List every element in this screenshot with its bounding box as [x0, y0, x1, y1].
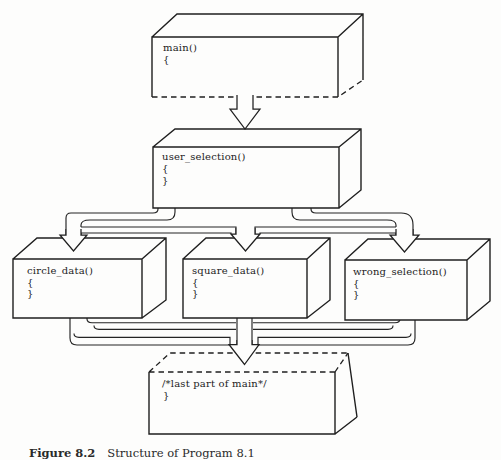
- wrong-selection-brace-open: {: [353, 278, 360, 289]
- circle-data-label: circle_data(): [27, 265, 93, 277]
- pipe-user-to-square-left: [81, 227, 236, 234]
- circle-data-brace-close: }: [27, 288, 34, 299]
- box-circle-data: [13, 238, 166, 318]
- user-selection-brace-close: }: [162, 175, 169, 186]
- box-wrong-selection: [345, 239, 490, 320]
- circle-data-brace-open: {: [27, 277, 34, 288]
- box-square-data-body: [183, 238, 330, 318]
- box-user-selection-body: [153, 129, 361, 208]
- figure-caption: Figure 8.2Structure of Program 8.1: [29, 446, 255, 460]
- box-wrong-selection-body: [345, 239, 490, 320]
- arrow-main-to-user: [230, 95, 260, 129]
- last-part-brace-close: }: [163, 390, 170, 401]
- user-selection-brace-open: {: [162, 163, 169, 174]
- last-part-label: /*last part of main*/: [162, 378, 267, 389]
- main-label: main(): [163, 42, 197, 53]
- wrong-selection-brace-close: }: [353, 289, 360, 300]
- square-data-brace-open: {: [192, 277, 199, 288]
- box-user-selection: [153, 129, 361, 208]
- main-brace-open: {: [163, 54, 170, 65]
- box-square-data: [183, 238, 330, 318]
- pipe-user-to-square-right: [255, 227, 396, 234]
- wrong-selection-label: wrong_selection(): [353, 266, 447, 278]
- figure-caption-number: Figure 8.2: [29, 446, 95, 460]
- figure-caption-title: Structure of Program 8.1: [107, 446, 254, 460]
- box-last-body: [149, 353, 357, 434]
- square-data-brace-close: }: [192, 288, 199, 299]
- square-data-label: square_data(): [192, 265, 264, 277]
- box-last-part-of-main: [149, 353, 357, 434]
- box-main: [152, 14, 363, 97]
- box-main-body: [152, 14, 363, 97]
- box-circle-data-body: [13, 238, 166, 318]
- user-selection-label: user_selection(): [162, 151, 246, 163]
